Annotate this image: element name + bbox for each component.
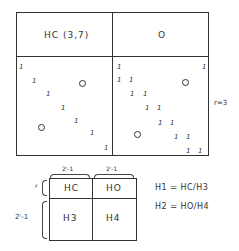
brace-left-top-label: r xyxy=(35,182,37,189)
one-mark: 1 xyxy=(117,64,121,71)
bottom-grid-border-right xyxy=(136,178,137,241)
bottom-grid-border-left xyxy=(49,178,50,241)
one-mark: 1 xyxy=(174,134,178,141)
bottom-grid-border-bottom xyxy=(49,240,137,241)
one-mark: 1 xyxy=(157,105,161,112)
one-mark: 1 xyxy=(61,105,65,112)
equation-h1: H1 = HC/H3 xyxy=(155,183,208,192)
top-grid-border-left xyxy=(16,12,17,156)
one-mark: 1 xyxy=(130,91,134,98)
one-mark: 1 xyxy=(143,91,147,98)
one-mark: 1 xyxy=(32,78,36,85)
brace-left-top xyxy=(42,180,47,196)
one-mark: 1 xyxy=(186,148,190,155)
circle-mark xyxy=(182,79,189,86)
one-mark: 1 xyxy=(145,105,149,112)
equation-h2: H2 = HO/H4 xyxy=(155,202,209,211)
brace-left-bottom xyxy=(42,201,47,239)
one-mark: 1 xyxy=(104,145,108,152)
one-mark: 1 xyxy=(202,64,206,71)
side-label-r: r=3 xyxy=(214,99,227,107)
brace-top-left-label: 2ʳ-1 xyxy=(62,165,73,172)
one-mark: 1 xyxy=(170,120,174,127)
header-right-symbol: O xyxy=(158,30,166,40)
bottom-grid-border-top xyxy=(49,178,137,179)
brace-top-right-label: 2ʳ-1 xyxy=(106,165,117,172)
one-mark: 1 xyxy=(46,91,50,98)
cell-hc: HC xyxy=(64,183,79,193)
circle-mark xyxy=(79,80,86,87)
bottom-grid-divider-vertical xyxy=(92,178,93,241)
one-mark: 1 xyxy=(74,118,78,125)
cell-h4: H4 xyxy=(106,213,121,223)
top-grid-border-right xyxy=(208,12,209,156)
brace-left-bottom-label: 2ʳ-1 xyxy=(15,213,28,221)
one-mark: 1 xyxy=(158,120,162,127)
one-mark: 1 xyxy=(186,134,190,141)
header-left-label: HC (3,7) xyxy=(44,30,89,40)
one-mark: 1 xyxy=(90,130,94,137)
one-mark: 1 xyxy=(129,77,133,84)
circle-mark xyxy=(38,124,45,131)
one-mark: 1 xyxy=(198,148,202,155)
circle-mark xyxy=(134,131,141,138)
top-grid-divider-vertical xyxy=(112,12,113,156)
cell-ho: HO xyxy=(106,183,122,193)
one-mark: 1 xyxy=(117,77,121,84)
bottom-grid-divider-horizontal xyxy=(49,198,137,199)
one-mark: 1 xyxy=(19,64,23,71)
cell-h3: H3 xyxy=(63,213,78,223)
top-grid-divider-horizontal xyxy=(16,56,209,57)
